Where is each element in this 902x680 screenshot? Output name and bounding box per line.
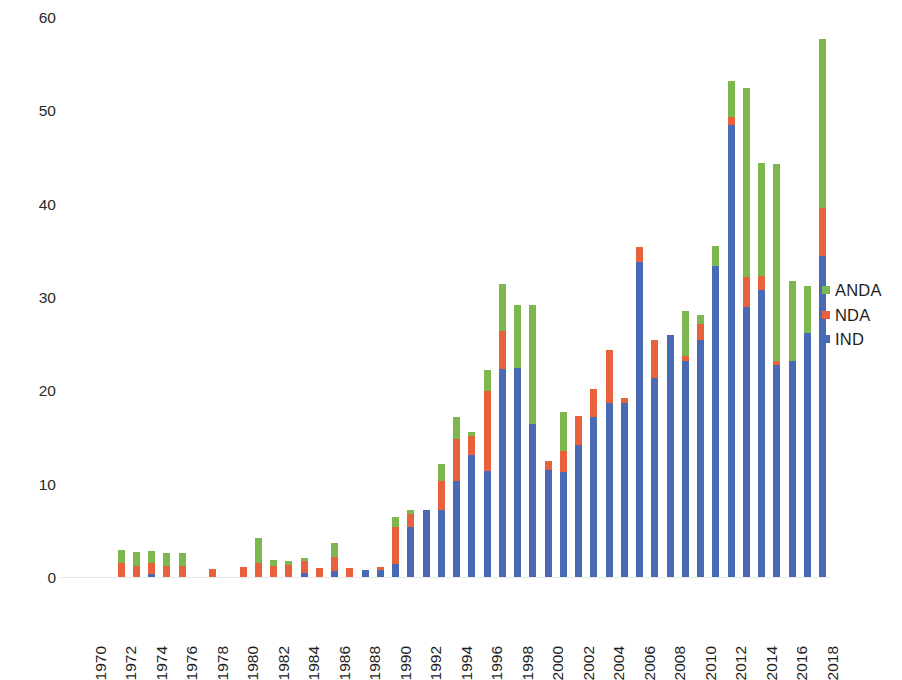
bar-segment-ind <box>712 266 719 578</box>
bar-segment-anda <box>331 543 338 556</box>
bar-2012 <box>728 81 735 578</box>
y-tick-label: 60 <box>22 10 56 26</box>
bar-1997 <box>499 284 506 578</box>
bar-segment-anda <box>484 370 491 391</box>
bar-1975 <box>163 553 170 578</box>
bar-segment-ind <box>453 481 460 578</box>
bar-1994 <box>453 417 460 578</box>
legend: ANDANDAIND <box>822 278 898 352</box>
y-axis: 0102030405060 <box>12 18 56 578</box>
bar-segment-ind <box>560 472 567 578</box>
bar-segment-ind <box>758 290 765 578</box>
bar-segment-nda <box>407 514 414 527</box>
x-tick-label: 1986 <box>337 646 353 680</box>
bar-segment-nda <box>468 436 475 455</box>
x-tick-label: 2004 <box>611 646 627 680</box>
bar-2015 <box>773 164 780 578</box>
bar-1984 <box>301 558 308 579</box>
bar-segment-ind <box>407 527 414 578</box>
bar-segment-ind <box>621 403 628 578</box>
bar-segment-ind <box>484 471 491 578</box>
bar-segment-ind <box>636 262 643 578</box>
bar-segment-ind <box>392 564 399 578</box>
bar-1972 <box>118 550 125 578</box>
bar-segment-ind <box>468 455 475 578</box>
bar-segment-nda <box>118 563 125 578</box>
x-axis-line <box>60 577 830 578</box>
bar-2004 <box>606 350 613 578</box>
bar-segment-ind <box>728 125 735 578</box>
bar-segment-anda <box>758 163 765 276</box>
bar-1981 <box>255 538 262 578</box>
bar-1995 <box>468 432 475 578</box>
x-tick-label: 2010 <box>703 646 719 680</box>
bar-segment-anda <box>712 246 719 267</box>
bar-segment-anda <box>529 305 536 424</box>
bar-1974 <box>148 551 155 578</box>
bar-2005 <box>621 398 628 578</box>
bar-segment-nda <box>545 461 552 469</box>
y-tick-label: 50 <box>22 104 56 120</box>
legend-swatch-icon <box>822 286 830 294</box>
bar-segment-ind <box>667 335 674 578</box>
bar-segment-ind <box>590 417 597 578</box>
x-axis: 1970197219741976197819801982198419861988… <box>60 582 830 652</box>
bar-segment-ind <box>545 470 552 578</box>
legend-swatch-icon <box>822 335 830 343</box>
bar-1992 <box>423 510 430 578</box>
legend-label: NDA <box>835 307 870 324</box>
bar-segment-ind <box>606 403 613 578</box>
bar-segment-anda <box>148 551 155 563</box>
x-tick-label: 1992 <box>428 646 444 680</box>
bar-2001 <box>560 412 567 578</box>
bar-segment-anda <box>804 286 811 333</box>
bar-segment-nda <box>590 389 597 417</box>
x-tick-label: 1976 <box>184 646 200 680</box>
bar-2013 <box>743 88 750 578</box>
y-tick-label: 30 <box>22 290 56 306</box>
bar-segment-nda <box>651 340 658 378</box>
bar-2006 <box>636 247 643 578</box>
legend-item-ind[interactable]: IND <box>822 327 898 352</box>
bar-segment-anda <box>560 412 567 451</box>
bar-segment-nda <box>606 350 613 402</box>
bar-segment-anda <box>392 517 399 526</box>
bar-segment-anda <box>697 315 704 324</box>
bar-segment-anda <box>438 464 445 481</box>
legend-item-nda[interactable]: NDA <box>822 303 898 328</box>
y-tick-label: 20 <box>22 384 56 400</box>
x-tick-label: 1970 <box>93 646 109 680</box>
x-tick-label: 1990 <box>398 646 414 680</box>
x-tick-label: 2008 <box>672 646 688 680</box>
legend-item-anda[interactable]: ANDA <box>822 278 898 303</box>
plot-area <box>60 18 830 578</box>
bar-2014 <box>758 163 765 578</box>
x-tick-label: 2016 <box>794 646 810 680</box>
bar-segment-nda <box>255 563 262 578</box>
bar-1991 <box>407 510 414 578</box>
bar-segment-ind <box>651 378 658 578</box>
bar-segment-ind <box>682 361 689 578</box>
bar-2010 <box>697 315 704 578</box>
bar-segment-anda <box>499 284 506 331</box>
bar-segment-ind <box>423 510 430 578</box>
bar-segment-anda <box>133 552 140 566</box>
bar-segment-anda <box>773 164 780 362</box>
bar-segment-ind <box>514 368 521 578</box>
x-tick-label: 1974 <box>154 646 170 680</box>
bar-1973 <box>133 552 140 578</box>
bar-segment-anda <box>118 550 125 563</box>
x-tick-label: 1982 <box>276 646 292 680</box>
bar-segment-anda <box>728 81 735 117</box>
legend-label: IND <box>835 331 864 348</box>
bar-segment-nda <box>392 527 399 564</box>
bar-1999 <box>529 305 536 578</box>
bar-segment-nda <box>148 563 155 574</box>
bar-1976 <box>179 553 186 578</box>
bar-segment-ind <box>804 333 811 578</box>
bar-2007 <box>651 340 658 578</box>
bar-2016 <box>789 281 796 578</box>
legend-swatch-icon <box>822 311 830 319</box>
x-tick-label: 2014 <box>764 646 780 680</box>
bar-1993 <box>438 464 445 578</box>
